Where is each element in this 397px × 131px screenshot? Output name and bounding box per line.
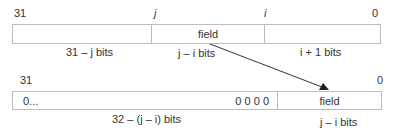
bottom-zero-right-text: 0 0 0 0 [235, 95, 269, 107]
top-bit-0-label: 0 [372, 7, 378, 19]
bottom-register: 0... 0 0 0 0 field [12, 91, 382, 110]
bottom-field-width-label: j – i bits [320, 116, 357, 128]
top-upper-field [13, 25, 151, 43]
bottom-bit-31-label: 31 [20, 74, 32, 86]
bottom-zero-left-text: 0... [23, 95, 38, 107]
top-lower-width-label: i + 1 bits [300, 46, 341, 58]
extract-arrow-icon [0, 0, 397, 131]
bottom-zero-field: 0... 0 0 0 0 [13, 92, 277, 109]
top-field-width-label: j – i bits [178, 47, 215, 59]
top-lower-field [264, 25, 380, 43]
top-upper-width-label: 31 – j bits [66, 46, 113, 58]
top-extract-field: field [151, 25, 264, 43]
top-bit-j-label: j [154, 7, 156, 19]
top-bit-31-label: 31 [14, 7, 26, 19]
bottom-zero-width-label: 32 – (j – i) bits [112, 113, 181, 125]
top-bit-i-label: i [264, 7, 266, 19]
bottom-bit-0-label: 0 [377, 74, 383, 86]
bottom-extract-field: field [277, 92, 381, 109]
top-register: field [12, 24, 381, 44]
